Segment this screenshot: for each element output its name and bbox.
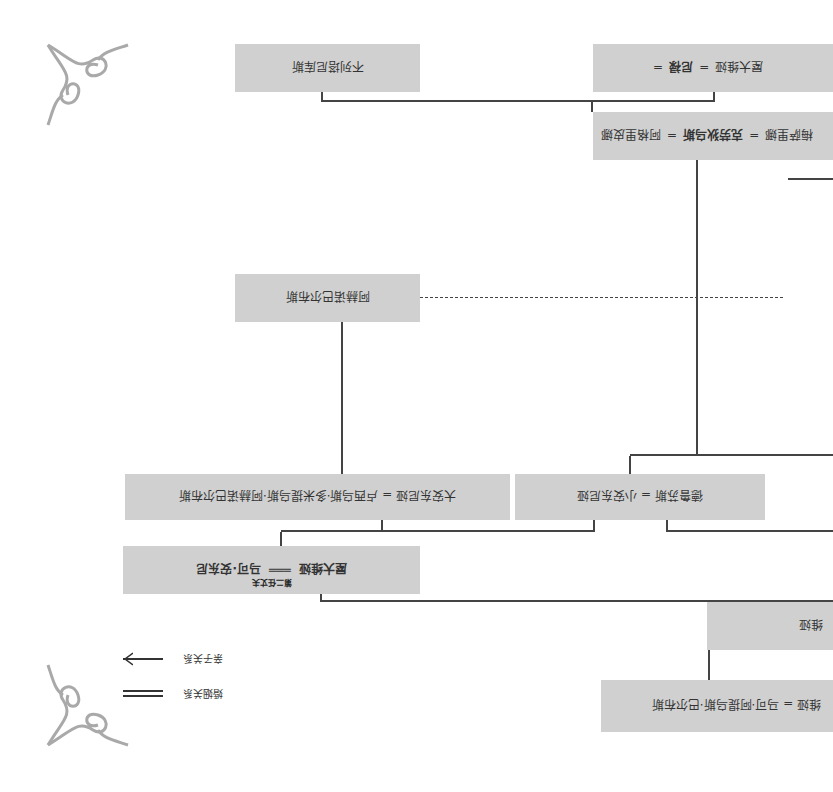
node-britannicus: 不列塔尼库斯 [235, 44, 420, 92]
legend-parent-child-label: 亲子关系 [183, 652, 223, 667]
dashed-relation-line [420, 297, 783, 298]
legend-double-line [123, 696, 163, 698]
node-ahenobarbus-text: 阿赫诺巴尔布斯 [286, 290, 370, 307]
node-nero: 屋大维娅 = 尼禄 = [593, 44, 833, 92]
legend-arrow-icon [121, 652, 133, 666]
legend-double-line [123, 691, 163, 693]
family-tree-canvas: 亲子关系 婚姻关系 维娅 = 马可·阿提乌斯·巴尔布斯 维娅 第二任丈夫 屋大维… [0, 0, 833, 792]
node-atia: 维娅 [707, 602, 833, 650]
node-balbus-text: 维娅 = 马可·阿提乌斯·巴尔布斯 [652, 698, 821, 715]
node-atia-text: 维娅 [799, 618, 823, 635]
octavia-name: 屋大维娅 [299, 562, 347, 579]
corner-ornament-icon [43, 660, 133, 750]
antony-name: 马可·安东尼 [196, 562, 261, 579]
node-claudius: 梅萨里娜 = 克劳狄乌斯 = 阿格里皮娜 [593, 112, 833, 160]
legend-marriage-label: 婚姻关系 [183, 687, 223, 702]
node-antonia-major-text: 大安东尼娅 = 卢西乌斯·多米提乌斯·阿赫诺巴尔布斯 [179, 489, 456, 506]
node-ahenobarbus: 阿赫诺巴尔布斯 [235, 274, 420, 322]
node-antonia-minor: 德鲁苏斯 = 小安东尼娅 [515, 474, 765, 520]
corner-ornament-icon [43, 40, 133, 130]
node-britannicus-text: 不列塔尼库斯 [292, 60, 364, 77]
node-antonia-minor-text: 德鲁苏斯 = 小安东尼娅 [577, 489, 703, 506]
node-balbus: 维娅 = 马可·阿提乌斯·巴尔布斯 [601, 680, 833, 732]
node-octavia-antony: 第二任丈夫 屋大维娅 ═══ 马可·安东尼 [123, 546, 420, 594]
node-antonia-major: 大安东尼娅 = 卢西乌斯·多米提乌斯·阿赫诺巴尔布斯 [125, 474, 510, 520]
note-second-husband: 第二任丈夫 [123, 578, 420, 589]
